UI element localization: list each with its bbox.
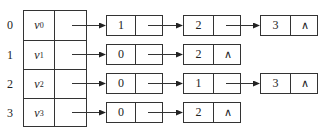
node-next [136,103,163,122]
edge-node: 0 [106,73,163,94]
node-data: 3 [261,16,291,35]
null-pointer-icon: ∧ [214,45,241,64]
node-data: 2 [184,103,214,122]
node-next [136,45,163,64]
edge-node: 2 ∧ [183,44,241,65]
edge-node: 0 [106,102,163,123]
node-data: 3 [261,74,291,93]
edge-node: 3 ∧ [260,15,318,36]
node-next [136,16,163,35]
node-data: 2 [184,16,214,35]
edge-node: 1 [183,73,241,94]
node-next [214,16,241,35]
node-data: 2 [184,45,214,64]
edge-node: 1 [106,15,163,36]
edge-node: 2 [183,15,241,36]
node-data: 1 [184,74,214,93]
node-data: 1 [107,16,136,35]
edge-node: 0 [106,44,163,65]
node-next [136,74,163,93]
null-pointer-icon: ∧ [291,16,318,35]
null-pointer-icon: ∧ [291,74,318,93]
node-next [214,74,241,93]
node-data: 0 [107,45,136,64]
null-pointer-icon: ∧ [214,103,241,122]
edge-node: 2 ∧ [183,102,241,123]
edge-node: 3 ∧ [260,73,318,94]
node-data: 0 [107,74,136,93]
node-data: 0 [107,103,136,122]
